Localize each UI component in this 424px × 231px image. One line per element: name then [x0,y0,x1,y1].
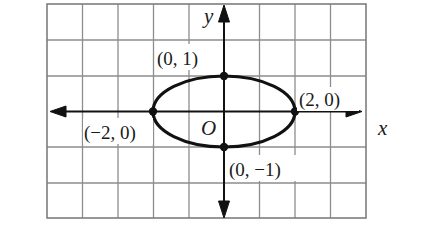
point-label-top: (0, 1) [157,48,198,70]
point-label-bottom: (0, −1) [229,159,281,181]
point-left [149,107,157,115]
point-label-right: (2, 0) [299,89,340,111]
point-top [220,72,228,80]
ellipse-diagram: (0, 1) (2, 0) (−2, 0) (0, −1) y x O [0,0,424,231]
y-axis-up-arrow-icon [219,5,230,22]
y-axis-label: y [202,4,214,28]
x-axis-left-arrow-icon [50,106,66,117]
labels: (0, 1) (2, 0) (−2, 0) (0, −1) y x O [83,4,388,181]
x-axis-label: x [377,116,388,140]
origin-label: O [201,116,216,140]
y-axis-down-arrow-icon [219,201,230,218]
axes [50,5,362,218]
point-label-left: (−2, 0) [84,122,136,144]
point-bottom [220,143,228,151]
